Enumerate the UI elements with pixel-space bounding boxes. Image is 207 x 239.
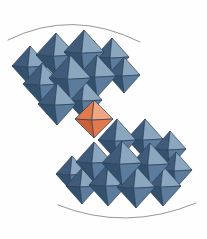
polyhedral-structure-diagram bbox=[0, 0, 207, 239]
figure-container: Two diagonal chains of blue coordination… bbox=[0, 0, 207, 239]
